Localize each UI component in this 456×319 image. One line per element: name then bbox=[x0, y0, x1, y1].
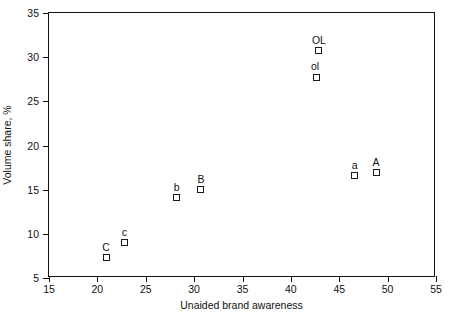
plot-area: 5101520253035 152025303540455055 OLolAaB… bbox=[48, 12, 435, 277]
square-marker-icon bbox=[121, 239, 128, 246]
x-tick-label-20: 20 bbox=[92, 284, 104, 295]
y-axis-title: Volume share, % bbox=[2, 105, 13, 184]
x-tick-label-15: 15 bbox=[43, 284, 55, 295]
y-tick-label-25: 25 bbox=[27, 96, 39, 107]
x-tick-15 bbox=[49, 276, 50, 282]
y-tick-15 bbox=[43, 190, 49, 191]
y-tick-30 bbox=[43, 57, 49, 58]
y-tick-35 bbox=[43, 13, 49, 14]
data-point-label: a bbox=[352, 159, 358, 170]
y-tick-20 bbox=[43, 146, 49, 147]
x-tick-label-40: 40 bbox=[285, 284, 297, 295]
x-tick-20 bbox=[97, 276, 98, 282]
y-tick-label-35: 35 bbox=[27, 8, 39, 19]
x-tick-label-30: 30 bbox=[188, 284, 200, 295]
x-tick-label-50: 50 bbox=[382, 284, 394, 295]
data-point-label: B bbox=[197, 173, 204, 184]
square-marker-icon bbox=[351, 172, 358, 179]
square-marker-icon bbox=[373, 169, 380, 176]
square-marker-icon bbox=[197, 186, 204, 193]
y-tick-25 bbox=[43, 101, 49, 102]
x-tick-55 bbox=[436, 276, 437, 282]
y-tick-label-20: 20 bbox=[27, 140, 39, 151]
x-tick-label-25: 25 bbox=[140, 284, 152, 295]
x-tick-25 bbox=[146, 276, 147, 282]
data-point-label: A bbox=[372, 156, 379, 167]
x-tick-45 bbox=[339, 276, 340, 282]
y-tick-label-15: 15 bbox=[27, 184, 39, 195]
y-tick-label-5: 5 bbox=[33, 273, 39, 284]
square-marker-icon bbox=[173, 194, 180, 201]
x-tick-40 bbox=[291, 276, 292, 282]
y-tick-label-10: 10 bbox=[27, 229, 39, 240]
x-tick-label-45: 45 bbox=[333, 284, 345, 295]
x-tick-label-35: 35 bbox=[237, 284, 249, 295]
x-tick-35 bbox=[243, 276, 244, 282]
data-point-label: b bbox=[174, 181, 180, 192]
square-marker-icon bbox=[315, 47, 322, 54]
data-point-label: C bbox=[102, 241, 110, 252]
scatter-chart: 5101520253035 152025303540455055 OLolAaB… bbox=[0, 0, 456, 319]
data-point-label: OL bbox=[312, 34, 326, 45]
x-tick-label-55: 55 bbox=[430, 284, 442, 295]
y-tick-label-30: 30 bbox=[27, 52, 39, 63]
square-marker-icon bbox=[103, 254, 110, 261]
y-tick-10 bbox=[43, 234, 49, 235]
x-tick-30 bbox=[194, 276, 195, 282]
square-marker-icon bbox=[313, 74, 320, 81]
data-point-label: c bbox=[122, 226, 127, 237]
x-axis-title: Unaided brand awareness bbox=[48, 300, 435, 311]
x-tick-50 bbox=[388, 276, 389, 282]
data-point-label: ol bbox=[311, 61, 319, 72]
